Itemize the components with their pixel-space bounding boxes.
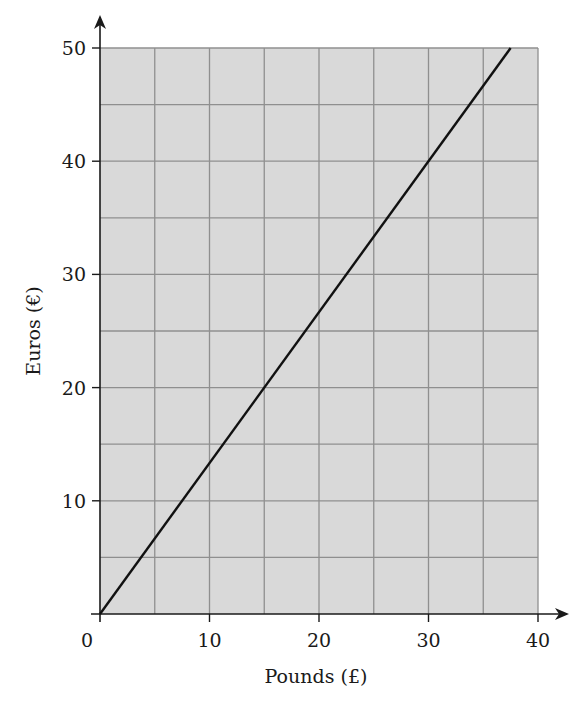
y-tick-label: 40 bbox=[62, 150, 86, 172]
y-tick-label: 30 bbox=[62, 263, 86, 285]
y-axis-label: Euros (€) bbox=[22, 286, 44, 375]
conversion-graph: 0102030401020304050 Pounds (£) Euros (€) bbox=[0, 0, 585, 701]
x-tick-label: 40 bbox=[526, 629, 550, 651]
x-axis-label: Pounds (£) bbox=[265, 665, 368, 687]
x-tick-label: 20 bbox=[307, 629, 331, 651]
x-tick-label: 0 bbox=[81, 629, 93, 651]
y-tick-label: 10 bbox=[62, 490, 86, 512]
x-tick-label: 10 bbox=[197, 629, 221, 651]
y-tick-label: 20 bbox=[62, 377, 86, 399]
x-tick-label: 30 bbox=[416, 629, 440, 651]
y-tick-label: 50 bbox=[62, 37, 86, 59]
